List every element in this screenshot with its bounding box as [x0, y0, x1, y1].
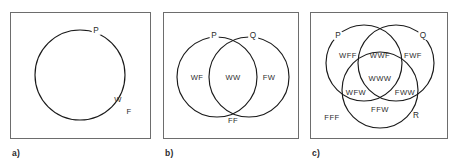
panel-b-caption: b)	[165, 148, 173, 158]
set-label-q: Q	[418, 32, 428, 40]
set-label-r: R	[411, 112, 420, 120]
region-label-wfw: WFW	[345, 89, 367, 97]
panel-c: P Q R WFF WWF FWF WWW WFW FWW FFW FFF c)	[310, 0, 450, 164]
region-label-fw: FW	[262, 74, 277, 82]
region-label-fwf: FWF	[403, 52, 423, 60]
panel-a: P W F a)	[10, 0, 155, 164]
panel-a-caption: a)	[12, 148, 20, 158]
region-label-fff: FFF	[323, 114, 340, 122]
region-label-wf: WF	[190, 74, 205, 82]
region-label-www: WWW	[368, 75, 393, 83]
region-label-wff: WFF	[338, 52, 358, 60]
region-label-wwf: WWF	[369, 52, 391, 60]
set-label-p: P	[210, 32, 219, 40]
region-label-ww: WW	[224, 74, 241, 82]
venn-diagram-figure: P W F a) P Q WF WW FW FF b) P Q R WFF	[0, 0, 455, 164]
panel-c-caption: c)	[312, 148, 320, 158]
region-label-fww: FWW	[394, 89, 416, 97]
region-label-ff: FF	[227, 117, 239, 125]
panel-a-circles	[10, 12, 151, 139]
set-label-q: Q	[248, 32, 258, 40]
region-label-ffw: FFW	[370, 106, 390, 114]
region-label-f: F	[125, 108, 132, 116]
region-label-w: W	[113, 96, 123, 104]
set-label-p: P	[92, 27, 101, 35]
set-label-p: P	[334, 32, 343, 40]
panel-b: P Q WF WW FW FF b)	[163, 0, 300, 164]
circle-p	[35, 30, 125, 120]
circle-q	[209, 37, 289, 117]
